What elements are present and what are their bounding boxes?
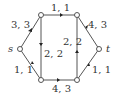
node-y [75,78,80,83]
node-t [97,47,102,52]
node-x [39,78,44,83]
edge-label-x-y: 4, 3 [52,84,71,94]
node-label-s: s [8,44,13,54]
node-u [39,13,44,18]
edge-label-u-x: 2, 2 [44,49,63,59]
edge-label-y-v: 2, 2 [63,37,82,47]
edge-label-v-t: 4, 3 [88,20,107,30]
edge-label-u-v: 1, 1 [51,3,70,13]
node-v [75,13,80,18]
edge-label-s-x: 1, 1 [14,65,33,75]
arrow-x-y-icon [57,78,60,82]
arrow-y-v-icon [75,50,79,53]
arrow-u-v-icon [60,13,63,17]
edge-label-s-u: 3, 3 [11,20,30,30]
node-label-t: t [106,44,110,54]
edge-label-y-t: 1, 1 [92,65,111,75]
node-s [18,47,23,52]
arrow-u-x-icon [39,43,43,46]
